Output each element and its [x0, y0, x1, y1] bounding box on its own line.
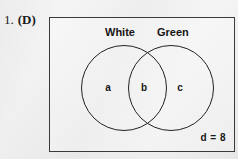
region-label-a: a: [101, 82, 115, 93]
set-label-white: White: [105, 26, 135, 38]
region-label-c: c: [173, 82, 187, 93]
universal-region-label: d = 8: [200, 132, 226, 143]
question-label: 1.(D): [4, 12, 36, 28]
region-label-b: b: [137, 82, 151, 93]
answer-choice: (D): [18, 12, 36, 27]
universal-set-rectangle: White Green a b c d = 8: [49, 17, 235, 152]
question-number: 1.: [4, 12, 14, 27]
set-label-green: Green: [157, 26, 189, 38]
venn-diagram-figure: 1.(D) White Green a b c d = 8: [0, 0, 238, 159]
